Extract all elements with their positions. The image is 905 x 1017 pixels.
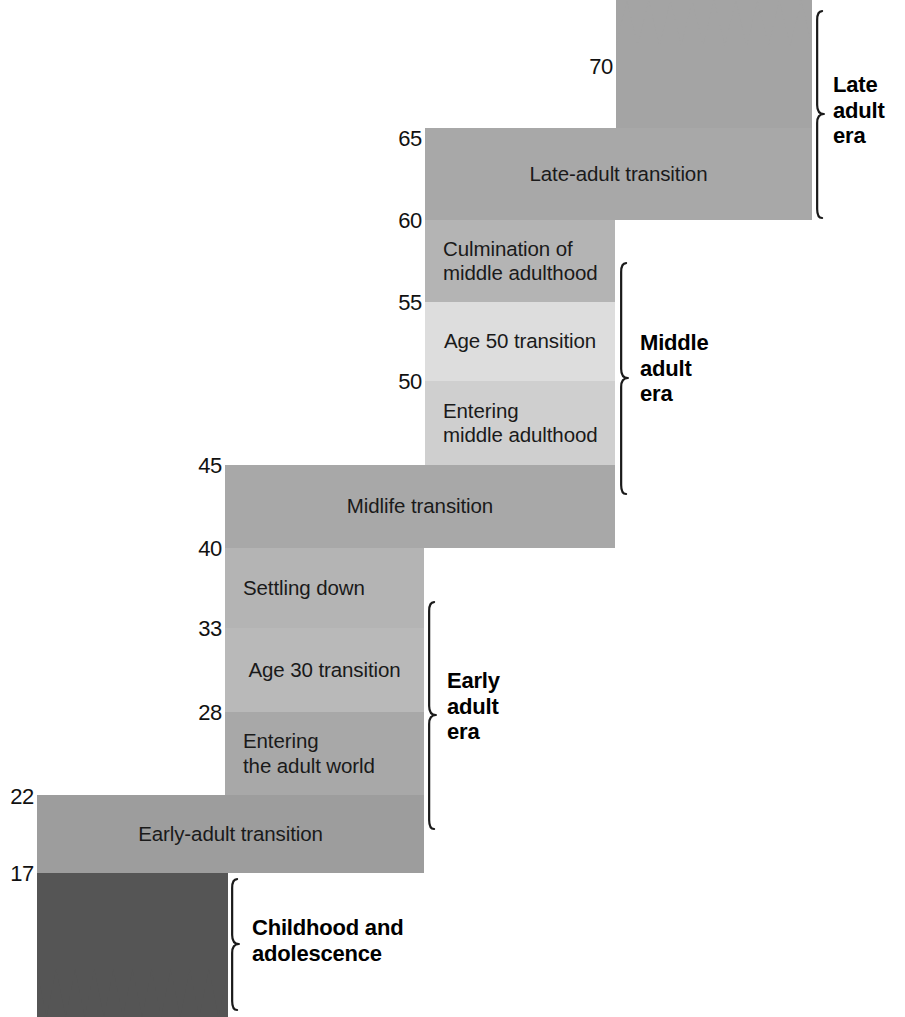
band-label: Culmination of middle adulthood — [425, 237, 615, 285]
band-label: Entering the adult world — [225, 729, 424, 777]
top-zigzag-edge-icon — [616, 0, 812, 46]
band-label: Entering middle adulthood — [425, 399, 615, 447]
brace-childhood-era — [233, 878, 247, 1014]
age-tick-40: 40 — [192, 538, 222, 560]
era-label-middle-adult-era: Middle adult era — [640, 330, 708, 407]
band-midlife-transition: Midlife transition — [225, 465, 615, 548]
brace-middle-adult-era — [622, 262, 636, 498]
age-tick-33: 33 — [192, 618, 222, 640]
band-entering-middle-adulthood: Entering middle adulthood — [425, 381, 615, 465]
era-label-late-adult-era: Late adult era — [833, 72, 885, 149]
band-late-adult-transition: Late-adult transition — [425, 128, 812, 220]
age-tick-22: 22 — [4, 786, 34, 808]
band-label: Age 50 transition — [425, 329, 615, 353]
age-tick-28: 28 — [192, 702, 222, 724]
age-tick-60: 60 — [392, 210, 422, 232]
band-early-adult-transition: Early-adult transition — [37, 795, 424, 873]
band-label: Settling down — [225, 576, 424, 600]
band-label: Early-adult transition — [37, 822, 424, 846]
brace-early-adult-era — [430, 601, 444, 833]
band-culmination-of-middle-adulthood: Culmination of middle adulthood — [425, 220, 615, 302]
band-age-30-transition: Age 30 transition — [225, 628, 424, 712]
band-age-50-transition: Age 50 transition — [425, 302, 615, 381]
age-tick-45: 45 — [192, 455, 222, 477]
age-tick-55: 55 — [392, 292, 422, 314]
band-label: Midlife transition — [225, 494, 615, 518]
band-entering-the-adult-world: Entering the adult world — [225, 712, 424, 795]
age-tick-17: 17 — [4, 863, 34, 885]
age-tick-65: 65 — [392, 128, 422, 150]
band-label: Age 30 transition — [225, 658, 424, 682]
band-label: Late-adult transition — [425, 162, 812, 186]
levinson-life-structure-diagram: Late-adult transitionCulmination of midd… — [0, 0, 905, 1017]
era-label-early-adult-era: Early adult era — [447, 668, 500, 745]
brace-late-adult-era — [818, 10, 832, 222]
age-tick-70: 70 — [583, 56, 613, 78]
age-tick-50: 50 — [392, 371, 422, 393]
band-settling-down: Settling down — [225, 548, 424, 628]
era-label-childhood-era: Childhood and adolescence — [252, 915, 403, 966]
bottom-zigzag-edge-icon — [37, 969, 228, 1017]
